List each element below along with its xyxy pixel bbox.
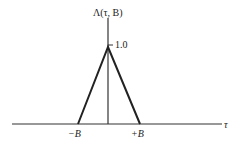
y-axis-label: Λ(τ, B): [93, 7, 123, 19]
plus-b-label: +B: [131, 128, 144, 139]
minus-b-label: −B: [68, 128, 81, 139]
x-axis-label: τ: [224, 119, 228, 130]
triangle-curve: [78, 47, 140, 124]
peak-value-label: 1.0: [115, 39, 128, 50]
triangle-function-diagram: Λ(τ, B) 1.0 −B +B τ: [0, 0, 240, 146]
